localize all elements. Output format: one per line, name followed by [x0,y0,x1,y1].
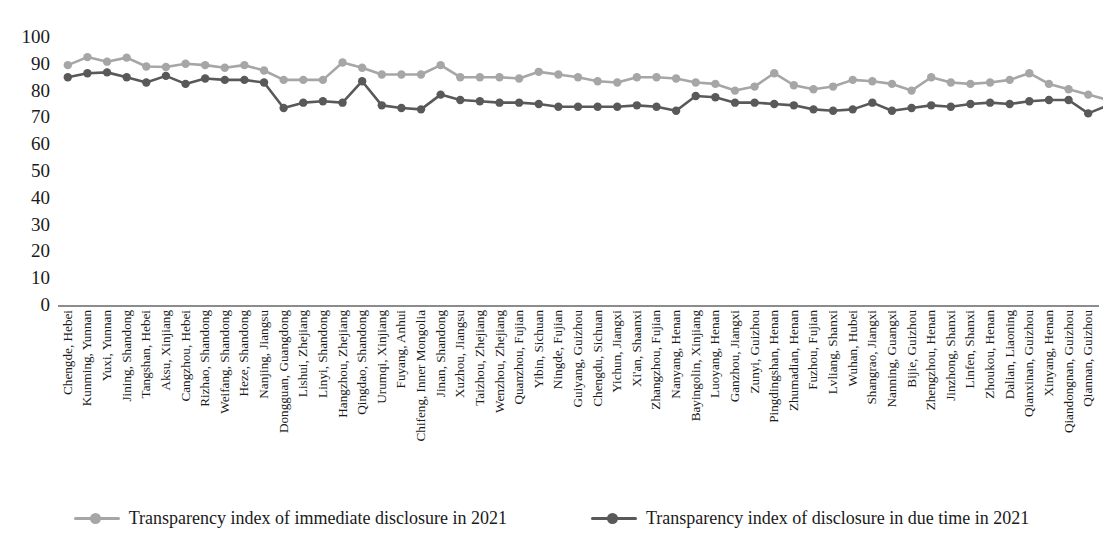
x-axis-tick: Guiyang, Guizhou [570,308,586,488]
data-point [122,73,130,81]
legend-item[interactable]: Transparency index of disclosure in due … [591,508,1029,528]
data-point [279,104,287,112]
data-point [201,61,209,69]
data-point [103,57,111,65]
x-axis-tick-label: Jining, Shandong [120,310,133,402]
x-axis-tick-label: Zhoukou, Henan [983,310,996,399]
x-axis-tick: Linyi, Shandong [315,308,331,488]
data-point [947,102,955,110]
data-point [790,81,798,89]
data-point [986,98,994,106]
data-point [1006,100,1014,108]
x-axis-tick-label: Yuxi, Yunnan [100,310,113,381]
x-axis-tick: Cangzhou, Hebei [178,308,194,488]
data-point [221,64,229,72]
data-point [1025,97,1033,105]
data-point [868,98,876,106]
x-axis-tick-label: Zhangzhou, Fujian [650,310,663,410]
y-axis-tick-label: 0 [41,295,51,314]
x-axis-tick-label: Jinzhong, Shanxi [944,310,957,401]
x-axis-tick-label: Zhumadian, Henan [787,310,800,411]
data-point [142,62,150,70]
data-point [770,100,778,108]
x-axis-tick: Zhoukou, Henan [982,308,998,488]
x-axis-tick: Luoyang, Henan [707,308,723,488]
data-point [986,78,994,86]
data-point [907,104,915,112]
data-point [1006,76,1014,84]
x-axis-tick: Lishui, Zhejiang [295,308,311,488]
data-point [240,76,248,84]
data-point [535,68,543,76]
data-point [378,70,386,78]
y-axis-tick-label: 30 [31,215,50,234]
x-axis-tick: Qianxinan, Guizhou [1021,308,1037,488]
data-point [672,74,680,82]
data-point [1084,109,1092,117]
data-point [338,98,346,106]
x-axis-tick-label: Ningde, Fujian [552,310,565,389]
x-axis-tick: Nanning, Guangxi [884,308,900,488]
x-axis-tick: Taizhou, Zhejiang [472,308,488,488]
data-point [829,82,837,90]
x-axis-tick-label: Shangrao, Jiangxi [866,310,879,405]
data-point [692,92,700,100]
data-point [162,72,170,80]
x-axis-tick: Jining, Shandong [119,308,135,488]
x-axis-tick-label: Luoyang, Henan [709,310,722,398]
data-point [240,61,248,69]
x-axis-tick: Qiannan, Guizhou [1080,308,1096,488]
x-axis-tick-label: Quanzhou, Fujian [513,310,526,405]
data-point [221,76,229,84]
data-point [1025,69,1033,77]
x-axis-tick-label: Pingdingshan, Henan [768,310,781,423]
data-point [554,70,562,78]
x-axis-tick-label: Wuhan, Hubei [846,310,859,386]
x-axis-tick: Dongguan, Guangdong [276,308,292,488]
x-axis-tick-label: Yibin, Sichuan [532,310,545,388]
data-point [515,74,523,82]
data-point [397,104,405,112]
series-canvas [58,30,1098,308]
x-axis-tick: Zhangzhou, Fujian [648,308,664,488]
y-axis-tick-label: 80 [31,81,50,100]
x-axis-tick-label: Lishui, Zhejiang [297,310,310,397]
data-point [711,80,719,88]
data-point [574,73,582,81]
data-point [142,78,150,86]
data-point [279,76,287,84]
x-axis-tick-label: Fuzhou, Fujian [807,310,820,390]
x-axis-tick: Aksu, Xinjiang [158,308,174,488]
x-axis-tick-label: Chengde, Hebei [61,310,74,395]
x-axis-tick: Hangzhou, Zhejiang [335,308,351,488]
x-axis-tick-label: Qiannan, Guizhou [1082,310,1095,407]
data-point [731,98,739,106]
data-point [417,105,425,113]
data-point [535,100,543,108]
data-point [829,107,837,115]
x-axis-tick: Qingdao, Shandong [354,308,370,488]
legend-item[interactable]: Transparency index of immediate disclosu… [74,508,507,528]
x-axis-tick: Xinyang, Henan [1041,308,1057,488]
x-axis-tick: Xuzhou, Jiangsu [452,308,468,488]
data-point [1084,90,1092,98]
x-axis-tick-label: Kunming, Yunnan [81,310,94,406]
data-point [849,105,857,113]
data-point [64,61,72,69]
data-point [790,101,798,109]
data-point [515,98,523,106]
data-point [672,107,680,115]
x-axis-tick: Chengde, Hebei [60,308,76,488]
data-point [495,98,503,106]
series-2 [64,68,1103,117]
x-axis-tick-label: Cangzhou, Hebei [179,310,192,402]
data-point [652,73,660,81]
data-point [750,82,758,90]
y-axis: 1009080706050403020100 [0,0,56,320]
data-point [436,90,444,98]
data-point [495,73,503,81]
data-point [122,53,130,61]
data-point [750,98,758,106]
x-axis-tick-label: Yichun, Jiangxi [611,310,624,393]
data-point [652,102,660,110]
